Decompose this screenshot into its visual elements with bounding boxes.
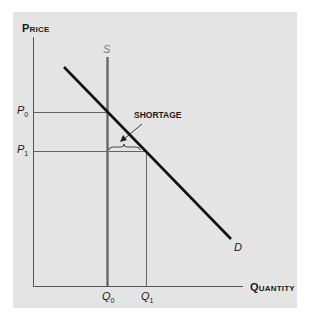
arrow-head-icon (120, 135, 127, 142)
q0-letter: Q (102, 290, 111, 302)
q0-sub: 0 (111, 297, 115, 304)
supply-demand-diagram (0, 0, 310, 324)
supply-label: S (103, 43, 110, 55)
y-axis-label: Price (22, 22, 49, 34)
q1-label: Q1 (141, 290, 153, 304)
q1-letter: Q (141, 290, 150, 302)
x-axis-label: Quantity (250, 281, 295, 293)
q1-sub: 1 (150, 297, 154, 304)
q0-label: Q0 (102, 290, 114, 304)
shortage-brace (109, 144, 140, 150)
p1-sub: 1 (24, 150, 28, 157)
demand-label: D (234, 241, 242, 253)
shortage-annotation: SHORTAGE (134, 110, 182, 120)
p0-label: P0 (17, 104, 28, 118)
x-axis-label-text: Quantity (250, 281, 295, 293)
y-axis-label-text: Price (22, 22, 49, 34)
p1-label: P1 (17, 143, 28, 157)
demand-curve (64, 67, 231, 239)
p0-sub: 0 (24, 111, 28, 118)
